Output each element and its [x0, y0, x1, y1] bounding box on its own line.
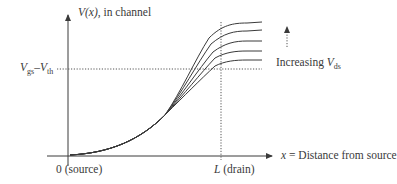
increasing-text: Increasing [276, 56, 327, 68]
increasing-var: V [327, 56, 334, 68]
threshold-sub2: th [47, 67, 53, 76]
drain-label: L (drain) [214, 163, 255, 175]
increasing-vds-label: Increasing Vds [276, 56, 341, 68]
y-axis-label-arg: (x) [85, 6, 98, 18]
threshold-v1: V [20, 61, 27, 73]
x-axis-label: x = Distance from source [281, 149, 397, 161]
threshold-v2: V [40, 61, 47, 73]
origin-label: 0 (source) [56, 163, 102, 175]
threshold-label: Vgs–Vth [20, 61, 53, 73]
y-axis-label: V(x), in channel [78, 6, 151, 18]
y-axis-label-rest: , in channel [98, 6, 151, 18]
y-axis-label-var: V [78, 6, 85, 18]
threshold-sub1: gs [27, 67, 34, 76]
increasing-sub: ds [334, 62, 341, 71]
curve-4 [70, 30, 262, 155]
x-axis-label-rest: = Distance from source [286, 149, 397, 161]
curve-2 [70, 51, 262, 155]
curve-3 [70, 41, 262, 155]
drain-label-rest: (drain) [220, 163, 254, 175]
channel-voltage-curves [70, 22, 262, 155]
curve-1 [70, 60, 262, 155]
